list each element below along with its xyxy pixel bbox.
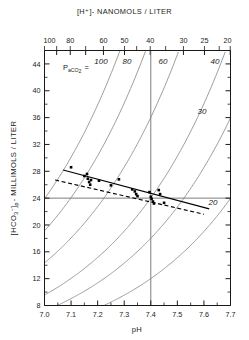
- figure-root: [H⁺]- NANOMOLS / LITER 10080605040302520…: [0, 0, 249, 340]
- data-point: [148, 191, 151, 194]
- y-axis-label-open: [HCO: [9, 215, 18, 236]
- data-point: [83, 175, 86, 178]
- y-axis-tick-label: 36: [33, 113, 41, 122]
- data-point: [86, 173, 89, 176]
- isobar-label: 40: [211, 57, 220, 66]
- y-axis-tick-label: 12: [33, 274, 41, 283]
- y-axis-tick-label: 40: [33, 86, 41, 95]
- x-axis-tick-label: 7.0: [40, 310, 50, 319]
- y-axis-label-subp: p: [13, 202, 19, 205]
- y-axis-tick-label: 32: [33, 140, 41, 149]
- top-axis-title: [H⁺]- NANOMOLS / LITER: [77, 7, 172, 16]
- isobar-label: 100: [94, 57, 108, 66]
- pco2-caption-sub2: 2: [79, 68, 82, 74]
- data-point: [98, 179, 101, 182]
- isobar-label: 30: [198, 107, 207, 116]
- pco2-caption-sub: aCO: [68, 67, 79, 73]
- data-point: [87, 177, 90, 180]
- x-axis-tick-label: 7.1: [66, 310, 76, 319]
- x-axis-tick-label: 7.5: [172, 310, 182, 319]
- isobar-label: 60: [159, 57, 168, 66]
- top-axis-tick-label: 40: [146, 36, 154, 45]
- top-axis-tick-label: 100: [44, 36, 56, 45]
- x-axis-tick-label: 7.4: [146, 310, 156, 319]
- data-point: [159, 193, 162, 196]
- x-axis-tick-label: 7.7: [226, 310, 236, 319]
- x-axis-tick-label: 7.6: [199, 310, 209, 319]
- top-axis-tick-label: 60: [99, 36, 107, 45]
- data-point: [153, 202, 156, 205]
- top-axis-tick-label: 80: [66, 36, 74, 45]
- isobar-label: 80: [123, 57, 132, 66]
- y-axis-tick-label: 20: [33, 221, 41, 230]
- x-axis-label: pH: [132, 325, 143, 334]
- y-axis-label: [HCO3−]p- MILLIMOLS / LITER: [9, 121, 19, 236]
- x-axis-tick-label: 7.3: [119, 310, 129, 319]
- data-point: [70, 166, 73, 169]
- x-axis-tick-label: 7.2: [93, 310, 103, 319]
- data-point: [89, 183, 92, 186]
- top-axis-tick-label: 20: [224, 36, 232, 45]
- data-point: [90, 179, 93, 182]
- pco2-caption-equals: =: [85, 63, 89, 72]
- top-axis-tick-label: 25: [200, 36, 208, 45]
- y-axis-tick-label: 24: [33, 194, 41, 203]
- top-axis-tick-label: 50: [120, 36, 128, 45]
- isobar-label: 20: [208, 198, 218, 207]
- data-point: [157, 189, 160, 192]
- acid-base-nomogram: [H⁺]- NANOMOLS / LITER 10080605040302520…: [0, 0, 249, 340]
- y-axis-tick-label: 28: [33, 167, 41, 176]
- data-point: [134, 190, 137, 193]
- y-axis-tick-label: 16: [33, 247, 41, 256]
- data-point: [150, 198, 153, 201]
- top-axis-tick-label: 30: [179, 36, 187, 45]
- data-point: [118, 178, 121, 181]
- data-point: [136, 195, 139, 198]
- data-point: [110, 184, 113, 187]
- data-point: [163, 202, 166, 205]
- y-axis-label-rest: - MILLIMOLS / LITER: [9, 121, 18, 202]
- data-point: [131, 188, 134, 191]
- y-axis-tick-label: 44: [33, 60, 41, 69]
